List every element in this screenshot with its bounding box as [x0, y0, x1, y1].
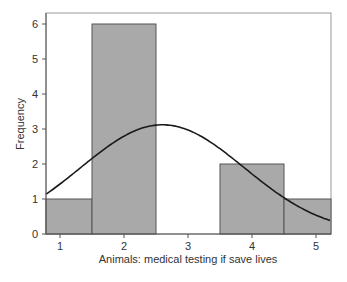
y-tick-label: 5 [32, 53, 38, 65]
y-tick-label: 2 [32, 158, 38, 170]
y-tick-label: 6 [32, 18, 38, 30]
x-tick-label: 4 [249, 240, 255, 252]
histogram-bars [46, 24, 331, 234]
y-tick-label: 1 [32, 193, 38, 205]
x-tick-label: 3 [185, 240, 191, 252]
histogram-bar [46, 199, 92, 234]
x-axis: 12345 [46, 234, 331, 252]
histogram-bar [284, 199, 331, 234]
histogram-chart: 0123456 12345 Animals: medical testing i… [0, 0, 347, 282]
histogram-bar [92, 24, 156, 234]
x-tick-label: 1 [57, 240, 63, 252]
y-axis-title: Frequency [14, 98, 26, 150]
y-tick-label: 4 [32, 88, 38, 100]
y-tick-label: 3 [32, 123, 38, 135]
x-axis-title: Animals: medical testing if save lives [99, 253, 278, 265]
x-tick-label: 2 [121, 240, 127, 252]
x-tick-label: 5 [313, 240, 319, 252]
y-axis: 0123456 [32, 13, 46, 240]
y-tick-label: 0 [32, 228, 38, 240]
